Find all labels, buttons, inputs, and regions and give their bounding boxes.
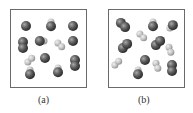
- molecule-icon: [165, 44, 174, 56]
- panel-b-label: (b): [138, 94, 150, 105]
- molecule-icon: [152, 60, 161, 72]
- atom-icon: [21, 21, 31, 31]
- molecule-icon: [151, 36, 165, 50]
- molecule-icon: [167, 60, 177, 76]
- molecule-layer: [0, 0, 193, 113]
- molecule-icon: [136, 30, 147, 41]
- molecule-icon: [116, 18, 130, 32]
- molecule-icon: [54, 39, 65, 50]
- atom-icon: [68, 36, 78, 46]
- molecule-icon: [35, 36, 48, 46]
- molecule-icon: [46, 19, 56, 32]
- molecule-icon: [18, 37, 28, 53]
- panel-a-label: (a): [38, 94, 49, 105]
- molecule-icon: [111, 58, 122, 69]
- molecule-icon: [133, 67, 143, 80]
- molecule-icon: [53, 65, 63, 78]
- atom-icon: [140, 55, 150, 65]
- molecule-icon: [24, 55, 35, 66]
- atom-icon: [40, 53, 50, 63]
- molecule-icon: [118, 39, 132, 53]
- molecule-icon: [70, 55, 80, 71]
- atom-icon: [68, 21, 78, 31]
- molecule-icon: [148, 19, 158, 32]
- molecule-icon: [166, 20, 177, 31]
- molecule-icon: [25, 67, 35, 80]
